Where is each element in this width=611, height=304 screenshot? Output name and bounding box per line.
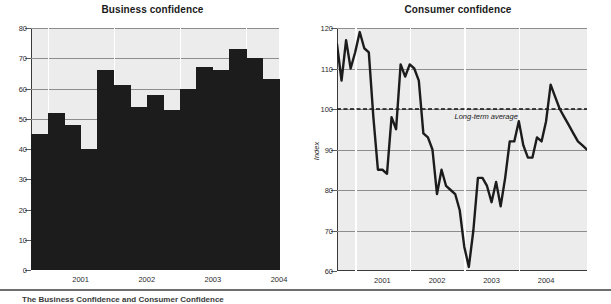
bar	[229, 49, 246, 270]
bar	[163, 110, 180, 270]
chart-panel-business-confidence: Business confidence 01020304050607080200…	[0, 0, 305, 301]
bar	[246, 58, 263, 270]
y-tick-label-business: 50	[19, 114, 27, 123]
bar	[31, 134, 48, 270]
bar	[147, 95, 164, 270]
y-tick-label-business: 70	[19, 54, 27, 63]
line-path	[337, 32, 587, 267]
bar	[196, 67, 213, 270]
y-tick-label-consumer: 120	[320, 24, 333, 33]
long-term-average-label: Long-term average	[455, 112, 518, 121]
y-tick-label-consumer: 60	[325, 267, 333, 276]
bar	[48, 113, 65, 270]
bar	[180, 89, 197, 271]
plot-area-consumer: 607080901001101202001200220032004Long-te…	[337, 28, 587, 271]
consumer-confidence-line-series	[337, 28, 587, 271]
y-tick-label-business: 0	[23, 266, 27, 275]
bar	[64, 125, 81, 270]
chart-panel-consumer-confidence: Consumer confidence Index 60708090100110…	[305, 0, 611, 301]
y-tick-label-consumer: 90	[325, 145, 333, 154]
bar	[81, 149, 98, 270]
chart-title-consumer: Consumer confidence	[305, 4, 611, 15]
x-tick-label-consumer: 2003	[483, 276, 500, 285]
footer-divider	[0, 289, 611, 291]
y-tick-label-business: 40	[19, 145, 27, 154]
chart-title-business: Business confidence	[0, 4, 305, 15]
bar	[130, 107, 147, 270]
y-tick-label-business: 30	[19, 175, 27, 184]
x-tick-label-consumer: 2002	[429, 276, 446, 285]
plot-area-business: 010203040506070802001200220032004	[31, 28, 279, 270]
footer-caption: The Business Confidence and Consumer Con…	[22, 295, 224, 304]
bar	[97, 70, 114, 270]
y-axis-label-index: Index	[312, 141, 321, 159]
y-tick-label-consumer: 110	[321, 64, 333, 73]
bar	[262, 79, 279, 270]
y-tick-label-consumer: 100	[320, 105, 333, 114]
x-tick-label-business: 2001	[72, 275, 89, 284]
x-tick-label-business: 2003	[205, 275, 222, 284]
x-tick-label-business: 2002	[138, 275, 155, 284]
y-tick-label-business: 80	[19, 24, 27, 33]
y-tick-label-business: 20	[19, 205, 27, 214]
y-tick-label-consumer: 80	[325, 186, 333, 195]
x-tick-label-consumer: 2001	[374, 276, 391, 285]
y-tick-label-business: 10	[19, 235, 27, 244]
y-tick-label-business: 60	[19, 84, 27, 93]
x-tick-label-consumer: 2004	[538, 276, 555, 285]
y-tick-label-consumer: 70	[325, 226, 333, 235]
bar	[213, 70, 230, 270]
gridline-horizontal	[31, 28, 279, 29]
x-tick-label-business: 2004	[271, 275, 288, 284]
bar	[114, 85, 131, 270]
